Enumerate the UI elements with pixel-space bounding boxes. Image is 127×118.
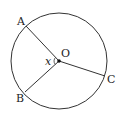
angle-arc-x — [54, 57, 56, 64]
label-c: C — [107, 73, 115, 86]
radius-oa — [26, 26, 59, 61]
circle-diagram: A O x B C — [0, 0, 127, 118]
label-a: A — [16, 15, 26, 28]
label-x: x — [45, 55, 52, 68]
radius-ob — [25, 61, 59, 92]
radius-oc — [59, 61, 105, 76]
label-o: O — [61, 47, 70, 60]
label-b: B — [16, 92, 24, 105]
